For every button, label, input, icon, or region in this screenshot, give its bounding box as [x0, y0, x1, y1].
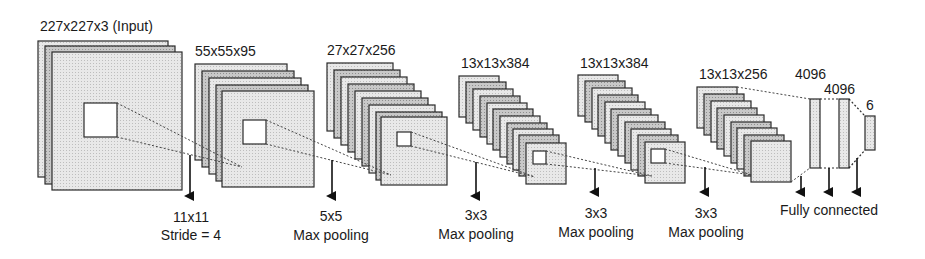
conv4-volume [578, 75, 685, 183]
conv1-volume [195, 64, 314, 187]
op-label-pool1-size: 5x5 [320, 208, 343, 224]
kernel-window [84, 103, 117, 137]
op-label-conv1-stride: Stride = 4 [161, 227, 221, 243]
layer-label-conv5: 13x13x256 [699, 66, 768, 82]
conv3-volume [459, 76, 566, 184]
fc8-layer [865, 116, 875, 150]
layer-label-conv1: 55x55x95 [195, 43, 256, 59]
fc6-layer [810, 99, 820, 168]
kernel-window [243, 120, 266, 144]
layer-label-fc6: 4096 [795, 66, 826, 82]
op-label-pool1-type: Max pooling [293, 227, 369, 243]
layer-label-fc7: 4096 [824, 81, 855, 97]
fc7-layer [839, 99, 849, 168]
layer-label-conv4: 13x13x384 [580, 55, 649, 71]
input-volume [38, 41, 182, 190]
architecture-diagram [0, 0, 925, 259]
layer-label-input: 227x227x3 (Input) [40, 18, 153, 34]
layer-label-conv2: 27x27x256 [327, 42, 396, 58]
layer-label-conv3: 13x13x384 [461, 55, 530, 71]
kernel-window [651, 149, 665, 163]
conv5-volume [697, 87, 791, 182]
layer-label-fc8: 6 [866, 97, 874, 113]
op-label-pool2-size: 3x3 [465, 207, 488, 223]
op-label-fully-connected: Fully connected [780, 202, 878, 218]
kernel-window [397, 132, 411, 146]
op-label-pool4-size: 3x3 [695, 205, 718, 221]
conv2-volume [327, 63, 447, 185]
op-label-pool2-type: Max pooling [438, 226, 514, 242]
op-label-pool3-size: 3x3 [585, 205, 608, 221]
op-label-pool4-type: Max pooling [668, 224, 744, 240]
kernel-window [533, 151, 546, 164]
op-label-pool3-type: Max pooling [558, 224, 634, 240]
op-label-conv1-kernel: 11x11 [173, 209, 209, 225]
